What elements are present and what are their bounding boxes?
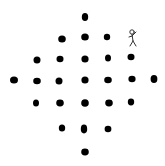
lattice-dot <box>128 99 134 106</box>
lattice-dot <box>59 124 65 131</box>
lattice-dot <box>81 125 87 134</box>
lattice-dot <box>105 126 112 132</box>
lattice-dot <box>57 56 64 62</box>
dot-lattice-diagram <box>0 0 165 166</box>
lattice-dot <box>82 13 88 21</box>
lattice-dot <box>128 54 135 60</box>
lattice-dot <box>33 99 39 106</box>
stick-figure-icon <box>129 30 136 46</box>
lattice-dot <box>81 55 88 62</box>
lattice-dots <box>10 13 157 155</box>
lattice-dot <box>105 100 113 107</box>
lattice-dot <box>151 75 158 83</box>
lattice-dot <box>81 33 89 40</box>
lattice-dot <box>104 77 112 83</box>
lattice-dot <box>58 35 66 42</box>
lattice-dot <box>128 76 135 82</box>
lattice-dot <box>105 54 111 61</box>
lattice-dot <box>81 76 88 83</box>
lattice-dot <box>104 34 110 40</box>
lattice-dot <box>56 78 63 85</box>
lattice-dot <box>10 76 18 83</box>
lattice-dot <box>33 78 41 84</box>
lattice-dot <box>81 99 89 107</box>
lattice-dot <box>81 149 89 156</box>
lattice-dot <box>34 57 41 64</box>
lattice-dot <box>56 100 64 107</box>
